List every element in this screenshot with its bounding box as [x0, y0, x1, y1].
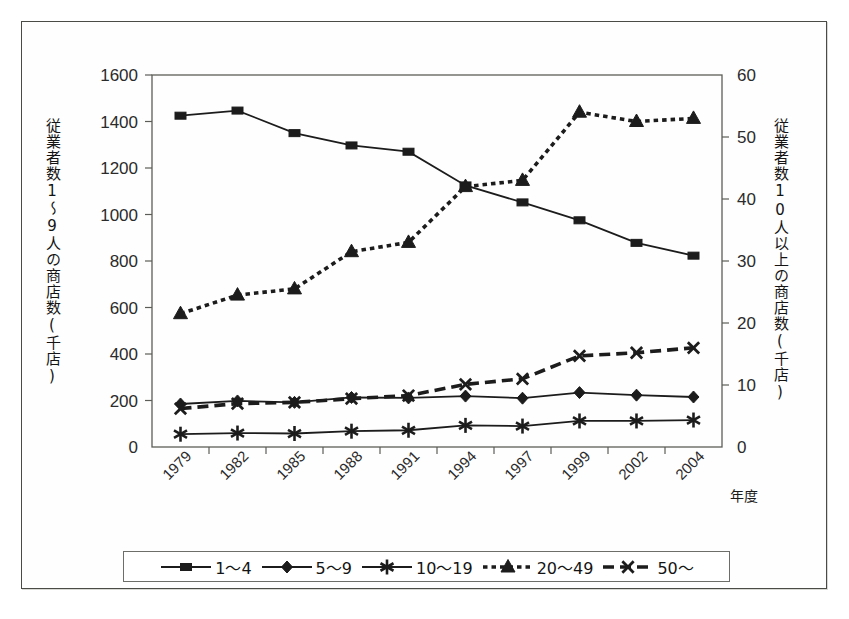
plot-area: 0200400600800100012001400160001020304050… [0, 0, 849, 619]
legend-sample-square-marker [159, 557, 213, 577]
diamond-marker [574, 387, 585, 399]
x-axis-tick-label: 2002 [615, 447, 651, 483]
series-star-x-marker [175, 342, 699, 414]
y-axis-tick-label: 1600 [100, 66, 138, 85]
legend-item-1[interactable]: 5〜9 [256, 555, 356, 579]
legend-label: 5〜9 [316, 555, 352, 579]
diamond-marker [281, 561, 292, 573]
x-axis-tick-label: 1994 [444, 447, 480, 483]
legend-item-0[interactable]: 1〜4 [155, 555, 255, 579]
triangle-marker [573, 105, 587, 118]
diamond-marker [460, 390, 471, 402]
series-line [181, 420, 694, 434]
chart-legend: 1〜45〜910〜1920〜4950〜 [123, 551, 730, 582]
x-axis-tick-label: 2004 [672, 447, 708, 483]
series-line [181, 348, 694, 409]
square-marker [574, 217, 585, 224]
y2-axis-tick-label: 50 [737, 128, 756, 147]
triangle-marker [174, 306, 188, 319]
triangle-marker [231, 288, 245, 301]
y-axis-tick-label: 0 [129, 438, 138, 457]
legend-sample-asterisk-marker [360, 557, 414, 577]
square-marker [232, 107, 243, 114]
y-axis-tick-label: 1400 [100, 113, 138, 132]
square-marker [631, 239, 642, 246]
square-marker [181, 563, 192, 570]
square-marker [517, 199, 528, 206]
y-axis-tick-label: 1000 [100, 206, 138, 225]
square-marker [175, 112, 186, 119]
x-axis-tick-label: 1979 [159, 447, 195, 483]
series-asterisk-marker [174, 413, 700, 442]
x-axis-tick-label: 1997 [501, 447, 537, 483]
x-axis-tick-label: 1982 [216, 447, 252, 483]
y2-axis-tick-label: 30 [737, 252, 756, 271]
legend-item-2[interactable]: 10〜19 [356, 555, 477, 579]
square-marker [346, 142, 357, 149]
y-axis-tick-label: 400 [110, 345, 138, 364]
diamond-marker [631, 389, 642, 401]
y2-axis-tick-label: 40 [737, 190, 756, 209]
x-axis-tick-label: 1985 [273, 447, 309, 483]
legend-label: 10〜19 [416, 555, 473, 579]
legend-label: 50〜 [657, 555, 693, 579]
series-layer [174, 105, 701, 442]
legend-item-4[interactable]: 50〜 [597, 555, 697, 579]
series-line [181, 111, 694, 256]
x-axis-tick-label: 1988 [330, 447, 366, 483]
diamond-marker [517, 392, 528, 404]
legend-item-3[interactable]: 20〜49 [477, 555, 598, 579]
axis-labels-layer: 0200400600800100012001400160001020304050… [100, 66, 758, 504]
square-marker [688, 252, 699, 259]
y-axis-tick-label: 1200 [100, 159, 138, 178]
series-triangle-marker [174, 105, 701, 319]
y-axis-tick-label: 800 [110, 252, 138, 271]
square-marker [403, 148, 414, 155]
y2-axis-tick-label: 20 [737, 314, 756, 333]
y2-axis-tick-label: 0 [737, 438, 746, 457]
y2-axis-tick-label: 10 [737, 376, 756, 395]
y-axis-tick-label: 200 [110, 392, 138, 411]
legend-sample-diamond-marker [260, 557, 314, 577]
line-chart: 0200400600800100012001400160001020304050… [0, 0, 849, 619]
series-line [181, 112, 694, 314]
square-marker [289, 130, 300, 137]
legend-sample-star-x-marker [601, 557, 655, 577]
legend-label: 1〜4 [215, 555, 251, 579]
x-axis-tick-label: 1999 [558, 447, 594, 483]
diamond-marker [688, 391, 699, 403]
series-square-marker [175, 107, 699, 259]
y2-axis-tick-label: 60 [737, 66, 756, 85]
legend-sample-triangle-marker [481, 557, 535, 577]
x-axis-tick-label: 1991 [387, 447, 423, 483]
x-axis-unit-label: 年度 [730, 488, 758, 504]
legend-label: 20〜49 [537, 555, 594, 579]
y-axis-tick-label: 600 [110, 299, 138, 318]
